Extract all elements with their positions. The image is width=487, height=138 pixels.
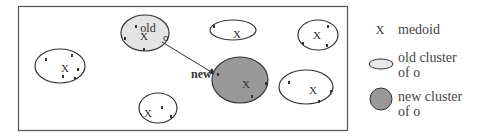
legend-item-new-cluster: new cluster of o bbox=[398, 89, 462, 119]
medoid-x-icon: X bbox=[313, 29, 321, 41]
medoid-x-icon: X bbox=[61, 62, 69, 74]
cluster-left: X bbox=[35, 49, 85, 83]
legend-item-medoid: medoid bbox=[398, 22, 440, 37]
legend-old-cluster-icon bbox=[369, 59, 393, 69]
legend-new-cluster-icon bbox=[370, 88, 392, 110]
legend-label-line2: of o bbox=[398, 65, 457, 80]
legend-label: medoid bbox=[398, 22, 440, 37]
legend-label: old cluster bbox=[398, 50, 457, 65]
cluster-bottom-middle: X bbox=[139, 93, 177, 123]
cluster-top-right: X bbox=[298, 20, 338, 50]
legend-label-line2: of o bbox=[398, 104, 462, 119]
cluster-top-middle: X bbox=[210, 20, 256, 40]
object-o-label: o bbox=[163, 31, 169, 43]
medoid-x-icon: X bbox=[144, 107, 152, 119]
legend-label: new cluster bbox=[398, 89, 462, 104]
legend-item-old-cluster: old cluster of o bbox=[398, 50, 457, 80]
medoid-x-icon: X bbox=[309, 84, 317, 96]
cluster-bottom-right: X bbox=[279, 70, 333, 104]
old-label: old bbox=[140, 21, 155, 35]
old-cluster: X old bbox=[121, 15, 169, 51]
medoid-x-icon: X bbox=[242, 78, 250, 90]
medoid-x-icon: X bbox=[233, 28, 241, 40]
new-label: new bbox=[191, 67, 212, 81]
legend-medoid-x-icon: X bbox=[376, 23, 385, 37]
new-cluster: X bbox=[212, 57, 268, 103]
